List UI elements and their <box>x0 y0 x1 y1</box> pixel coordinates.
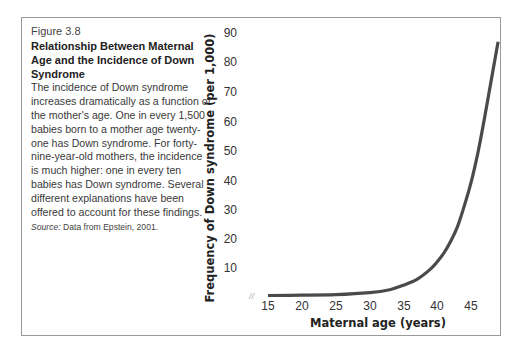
y-tick: 10 <box>224 261 238 275</box>
y-tick: 30 <box>224 203 238 217</box>
y-tick: 80 <box>224 55 238 69</box>
x-axis-ticks: 15 20 25 30 35 40 45 <box>261 299 478 313</box>
y-tick: 40 <box>224 174 238 188</box>
y-tick: 50 <box>224 144 238 158</box>
y-tick: 70 <box>224 85 238 99</box>
chart: Frequency of Down syndrome (per 1,000) 9… <box>0 0 528 355</box>
y-tick: 60 <box>224 115 238 129</box>
y-axis-ticks: 90 80 70 60 50 40 30 20 10 <box>224 26 238 275</box>
y-tick: 20 <box>224 232 238 246</box>
x-tick: 20 <box>295 299 309 313</box>
y-axis-title: Frequency of Down syndrome (per 1,000) <box>203 33 217 302</box>
x-tick: 30 <box>363 299 377 313</box>
y-tick: 90 <box>224 26 238 40</box>
x-tick: 25 <box>329 299 343 313</box>
x-tick: 35 <box>397 299 411 313</box>
x-tick: 40 <box>430 299 444 313</box>
axis-break-mark: // <box>248 291 256 301</box>
data-curve <box>268 42 498 296</box>
x-axis-title: Maternal age (years) <box>310 316 446 330</box>
x-tick: 45 <box>464 299 478 313</box>
x-tick: 15 <box>261 299 275 313</box>
